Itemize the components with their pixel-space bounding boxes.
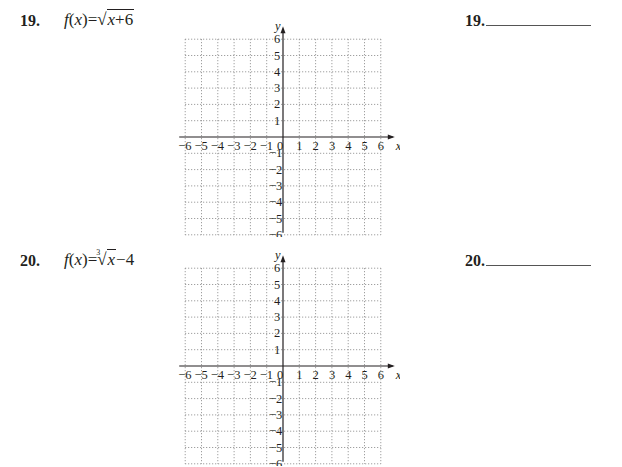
y-tick-label: 1 [274, 114, 280, 128]
x-tick-label: 1 [296, 368, 302, 382]
y-tick-label: 2 [274, 326, 280, 340]
x-tick-label: −2 [243, 139, 256, 153]
constant-term: −4 [116, 250, 134, 269]
y-tick-label: −4 [269, 424, 283, 438]
y-tick-label: −6 [269, 228, 282, 237]
answer-19-blank[interactable] [486, 25, 591, 26]
y-tick-label: −5 [269, 441, 282, 455]
x-tick-label: 2 [313, 139, 319, 153]
x-tick-label: 2 [313, 368, 319, 382]
y-tick-label: −3 [269, 179, 282, 193]
x-tick-label: −5 [195, 139, 208, 153]
x-tick-label: 4 [345, 139, 352, 153]
coordinate-grid-20[interactable]: xy−6−5−4−3−2−10123456123456−1−2−3−4−5−6 [160, 251, 400, 466]
x-tick-label: −2 [243, 368, 256, 382]
x-tick-label: −4 [211, 139, 225, 153]
x-tick-label: 3 [329, 368, 335, 382]
y-tick-label: −2 [269, 392, 282, 406]
y-tick-label: −6 [269, 457, 282, 466]
y-tick-label: −1 [269, 146, 282, 160]
x-tick-label: 5 [362, 139, 368, 153]
coordinate-grid-19[interactable]: xy−6−5−4−3−2−10123456123456−1−2−3−4−5−6 [160, 22, 400, 237]
x-tick-label: 3 [329, 139, 335, 153]
answer-19: 19. [465, 12, 591, 30]
problem-20-number: 20. [20, 252, 40, 270]
y-tick-label: 2 [274, 97, 280, 111]
x-tick-label: −3 [227, 139, 240, 153]
answer-20: 20. [465, 252, 591, 270]
radicand: x [107, 249, 117, 269]
x-tick-label: 1 [296, 139, 302, 153]
y-tick-label: −4 [269, 195, 283, 209]
square-root-icon: √ [97, 10, 106, 29]
equals-sign: = [88, 10, 98, 29]
problem-19-number: 19. [20, 12, 40, 30]
y-axis-arrow-icon [281, 255, 286, 262]
y-tick-label: 4 [274, 65, 281, 79]
y-tick-label: −1 [269, 375, 282, 389]
y-tick-label: 5 [274, 49, 280, 63]
answer-20-label: 20. [465, 252, 485, 269]
x-tick-label: −5 [195, 368, 208, 382]
x-tick-label: 6 [378, 139, 384, 153]
y-tick-label: 6 [274, 32, 280, 46]
y-tick-label: 6 [274, 261, 280, 275]
x-axis-label: x [395, 139, 400, 153]
x-tick-label: 4 [345, 368, 352, 382]
y-tick-label: 3 [274, 81, 280, 95]
y-tick-label: 4 [274, 294, 281, 308]
x-tick-label: 6 [378, 368, 384, 382]
answer-20-blank[interactable] [486, 265, 591, 266]
radicand: x+6 [107, 9, 135, 29]
problem-19-formula: f(x)=√x+6 [64, 10, 134, 30]
x-tick-label: −6 [178, 139, 191, 153]
cube-root-icon: 3√ [97, 250, 106, 270]
answer-19-label: 19. [465, 12, 485, 29]
x-axis-arrow-icon [388, 135, 395, 140]
x-tick-label: 5 [362, 368, 368, 382]
y-tick-label: 5 [274, 278, 280, 292]
y-axis-arrow-icon [281, 26, 286, 33]
y-tick-label: 3 [274, 310, 280, 324]
x-axis-label: x [395, 368, 400, 382]
x-tick-label: −4 [211, 368, 225, 382]
y-tick-label: −2 [269, 163, 282, 177]
problem-20-formula: f(x)=3√x−4 [64, 250, 134, 270]
y-tick-label: 1 [274, 343, 280, 357]
x-tick-label: −3 [227, 368, 240, 382]
x-axis-arrow-icon [388, 364, 395, 369]
y-tick-label: −5 [269, 212, 282, 226]
y-tick-label: −3 [269, 408, 282, 422]
x-tick-label: −6 [178, 368, 191, 382]
